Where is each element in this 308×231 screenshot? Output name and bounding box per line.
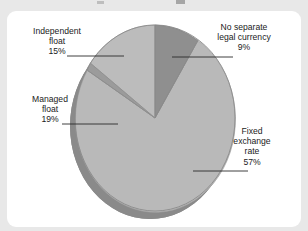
label-independent-float-value: 15% <box>14 46 100 56</box>
label-managed-float-line1: Managed <box>10 94 90 104</box>
label-managed-float-value: 19% <box>10 114 90 124</box>
label-fixed-exchange-line1: Fixed <box>210 126 294 136</box>
label-managed-float-line2: float <box>10 104 90 114</box>
label-no-separate-line2: legal currency <box>196 32 292 42</box>
label-no-separate-legal-currency: No separate legal currency 9% <box>196 22 292 53</box>
label-fixed-exchange-line3: rate <box>210 146 294 156</box>
label-fixed-exchange-line2: exchange <box>210 136 294 146</box>
label-independent-float-line2: float <box>14 36 100 46</box>
label-fixed-exchange-value: 57% <box>210 157 294 167</box>
figure-root: Independent float 15% Managed float 19% … <box>0 0 308 231</box>
label-fixed-exchange-rate: Fixed exchange rate 57% <box>210 126 294 167</box>
label-managed-float: Managed float 19% <box>10 94 90 125</box>
label-independent-float: Independent float 15% <box>14 26 100 57</box>
label-independent-float-line1: Independent <box>14 26 100 36</box>
label-no-separate-line1: No separate <box>196 22 292 32</box>
label-no-separate-value: 9% <box>196 42 292 52</box>
